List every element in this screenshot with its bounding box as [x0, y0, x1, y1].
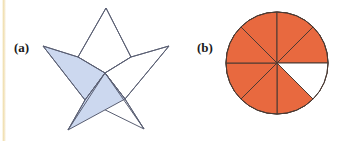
figure-root: (a) (b)	[0, 0, 341, 141]
panel-a-star	[43, 8, 169, 130]
panel-b-pie	[226, 12, 328, 114]
figure-svg	[0, 0, 341, 141]
panel-label-a: (a)	[14, 40, 29, 56]
panel-label-b: (b)	[197, 40, 213, 56]
